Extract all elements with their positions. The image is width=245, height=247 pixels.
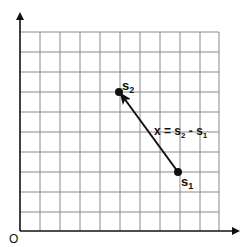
- origin-label: O: [9, 232, 18, 246]
- vector-label: x = s2 - s1: [154, 124, 208, 140]
- vector-diagram: O s2 s1 x = s2 - s1: [0, 0, 245, 247]
- point-s1-label: s1: [181, 174, 193, 191]
- point-s2-label: s2: [122, 78, 134, 95]
